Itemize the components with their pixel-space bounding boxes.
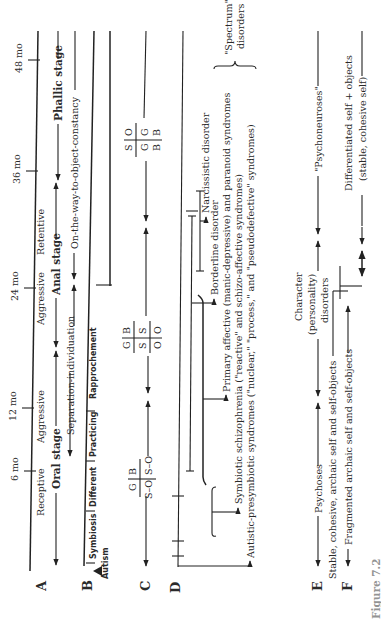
subphase-symbiosis: Symbiosis: [89, 513, 98, 559]
separation-individuation-label: Separation-individuation: [65, 316, 76, 435]
rotated-figure: 6 mo 12 mo 24 mo 36 mo 48 mo A Receptive…: [0, 0, 381, 621]
row-b-label: B: [80, 580, 95, 591]
d-spine: [178, 31, 183, 567]
psychoneuroses-label: "Psychoneuroses": [313, 86, 324, 172]
row-a-label: A: [34, 580, 49, 592]
receptive-label: Receptive: [35, 468, 46, 516]
d-item-borderline: Borderline disorder: [209, 200, 220, 295]
fragmented-label: Fragmented archaic self and self-objects: [343, 349, 354, 545]
d-item-primary: Primary affective (manic-depressive) and…: [221, 93, 232, 392]
c-box2-o-left: O: [152, 341, 163, 349]
c-box1-g: G: [127, 483, 138, 491]
differentiated-label-line2: (stable, cohesive self): [357, 77, 368, 181]
stable-cohesive-label: Stable, cohesive, archaic self and self-…: [327, 360, 338, 579]
autism-label: Autism: [101, 547, 110, 579]
c-box2-o-right: O: [152, 326, 163, 334]
tick-label-48mo: 48 mo: [13, 43, 24, 73]
c-box-1: G B S–O S–O: [127, 456, 156, 499]
d-item-symbiotic: Symbiotic schizophrenia ("reactive" and …: [233, 174, 244, 504]
d-item-narcissistic: Narcissistic disorder: [200, 112, 211, 213]
character-label-line1: Character: [293, 272, 304, 321]
figure-caption: Figure 7.2: [370, 558, 381, 619]
d-bar-borderline: [190, 216, 192, 471]
spectrum-label-line2: disorders: [235, 3, 246, 49]
c-box3-o: O: [123, 128, 134, 136]
row-e: E Psychoses Character (personality) diso…: [293, 31, 330, 591]
row-b: Separation-individuation On-the-way-to-o…: [65, 31, 112, 591]
c-box1-so-right: S–O: [143, 456, 154, 475]
tick-label-24mo: 24 mo: [9, 271, 20, 301]
oral-stage-label: Oral stage: [50, 428, 62, 489]
row-d-label: D: [168, 582, 183, 593]
aggressive-oral-label: Aggressive: [35, 390, 46, 444]
tick-label-36mo: 36 mo: [11, 154, 22, 184]
c-box3-s: S: [123, 144, 134, 151]
differentiated-label-line1: Differentiated self + objects: [343, 55, 354, 191]
c-box-2: G B S S O O: [121, 321, 163, 353]
row-f: Stable, cohesive, archaic self and self-…: [327, 31, 368, 591]
d-brace-spectrum: [214, 61, 256, 69]
character-label-line3: disorders: [319, 277, 330, 323]
tick-label-12mo: 12 mo: [7, 391, 18, 421]
tick-label-6mo: 6 mo: [9, 457, 20, 481]
row-d: D Autistic-presymbiotic syndromes ("nucl…: [168, 0, 256, 593]
subphase-rapprochement: Rapprochement: [89, 327, 98, 399]
row-a: A Receptive Aggressive Aggressive Retent…: [34, 31, 64, 592]
c-box3-g-left: G: [139, 143, 150, 151]
retentive-label: Retentive: [35, 208, 46, 255]
c-box3-g-right: G: [139, 128, 150, 136]
c-box3-b-left: B: [151, 144, 162, 151]
row-f-label: F: [340, 581, 355, 591]
spectrum-label-line1: "Spectrum": [223, 0, 234, 55]
character-label-line2: (personality): [306, 274, 317, 335]
c-box2-s-right: S: [137, 327, 148, 334]
c-box3-b-right: B: [151, 129, 162, 136]
subphase-practicing: Practicing: [89, 411, 98, 457]
c-box2-g: G: [121, 341, 132, 349]
aggressive-anal-label: Aggressive: [35, 272, 46, 326]
psychoses-label: Psychoses: [313, 464, 324, 513]
subphase-different: Different: [89, 467, 98, 507]
object-constancy-label: On-the-way-to-object-constancy: [69, 96, 80, 249]
c-box1-so-left: S–O: [143, 480, 154, 499]
c-box2-s-left: S: [137, 342, 148, 349]
row-e-label: E: [310, 581, 325, 591]
c-box1-b: B: [127, 468, 138, 475]
c-box-3: S O G G B B: [123, 123, 162, 157]
row-c: C G B S–O S–O G B S S O O S: [121, 31, 163, 591]
c-box2-b: B: [121, 327, 132, 334]
anal-stage-label: Anal stage: [50, 233, 62, 296]
d-brace-primary: [198, 295, 206, 485]
developmental-diagram: 6 mo 12 mo 24 mo 36 mo 48 mo A Receptive…: [0, 0, 381, 621]
row-c-label: C: [138, 581, 153, 591]
c-line-end: [144, 31, 146, 118]
d-item-autistic: Autistic-presymbiotic syndromes ("nuclea…: [245, 124, 256, 559]
